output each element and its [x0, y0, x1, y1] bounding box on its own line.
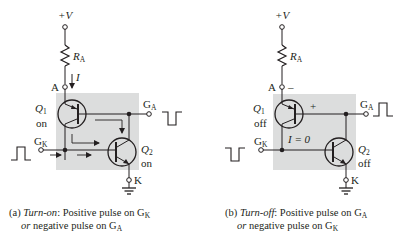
q1-state: off — [254, 117, 267, 129]
q2-label: Q2 — [358, 143, 370, 157]
ga-label: GA — [360, 98, 374, 112]
q1-label: Q1 — [253, 102, 265, 116]
anode-terminal — [63, 85, 68, 90]
ga-terminal — [364, 112, 369, 117]
caption-line2: or negative pulse on GA — [9, 219, 150, 232]
gk-negative-pulse — [225, 148, 245, 161]
ground-icon — [339, 188, 353, 194]
ga-label: GA — [143, 98, 157, 112]
cathode-label: K — [351, 174, 359, 186]
caption-line1: : Positive pulse on G — [274, 207, 362, 218]
anode-label: A — [268, 81, 276, 93]
caption-b: (b) Turn-off: Positive pulse on GA or ne… — [225, 206, 367, 232]
gk-positive-pulse — [11, 147, 31, 160]
gate-polarity: + — [310, 100, 316, 112]
cathode-terminal — [127, 178, 132, 183]
caption-a: (a) Turn-on: Positive pulse on GK or neg… — [9, 206, 150, 232]
q2-state: on — [141, 157, 153, 169]
supply-label: +V — [58, 9, 73, 21]
ground-icon — [122, 188, 136, 194]
resistor-ra — [61, 45, 69, 66]
ga-negative-pulse — [162, 112, 182, 125]
supply-terminal — [63, 25, 68, 30]
gk-junction — [280, 148, 285, 153]
caption-prefix: (b) — [225, 207, 240, 218]
device-shading — [56, 93, 139, 170]
caption-line2: or negative pulse on GK — [225, 219, 367, 232]
q1-label: Q1 — [35, 102, 47, 116]
ga-positive-pulse — [373, 103, 393, 116]
supply-terminal — [280, 25, 285, 30]
q2-label: Q2 — [141, 143, 153, 157]
panel-a-turn-on: +V RA I A Q1 on GA — [11, 9, 182, 194]
panel-b-turn-off: +V RA A – + Q1 off I = 0 GA — [225, 9, 393, 194]
caption-line1: : Positive pulse on G — [57, 207, 145, 218]
caption-title: Turn-on — [23, 207, 57, 218]
anode-polarity: – — [287, 81, 294, 93]
caption-prefix: (a) — [9, 207, 23, 218]
gk-label: GK — [254, 135, 268, 149]
cathode-label: K — [134, 174, 142, 186]
q2-state: off — [358, 157, 371, 169]
caption-title: Turn-off — [240, 207, 274, 218]
current-label: I = 0 — [287, 133, 311, 145]
resistor-ra — [278, 45, 286, 66]
q1-state: on — [36, 117, 48, 129]
current-label: I — [75, 71, 81, 83]
resistor-label: RA — [72, 50, 86, 64]
gk-label: GK — [34, 135, 48, 149]
anode-terminal — [280, 85, 285, 90]
anode-label: A — [51, 81, 59, 93]
supply-label: +V — [275, 9, 290, 21]
ga-terminal — [147, 112, 152, 117]
cathode-terminal — [344, 178, 349, 183]
gk-junction — [63, 148, 68, 153]
resistor-label: RA — [289, 50, 303, 64]
